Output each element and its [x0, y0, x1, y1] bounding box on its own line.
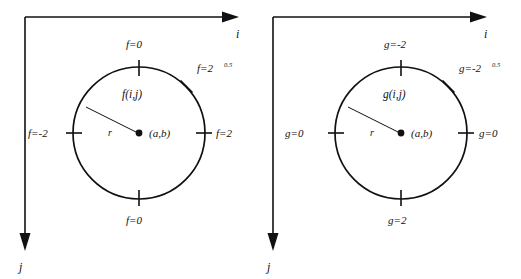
- tick-label-top: g=-2: [384, 38, 407, 50]
- tick-label-diagonal: g=-2 0.5: [459, 61, 501, 74]
- function-label: g(i,j): [383, 88, 406, 101]
- figure-canvas: i j r (a,b) f(i,j) f=0: [0, 0, 521, 279]
- tick-label-left: f=-2: [28, 127, 48, 139]
- center-point-marker: [136, 130, 143, 137]
- panel-left-drawing: i j r (a,b) f(i,j) f=0: [0, 0, 261, 279]
- panel-left: i j r (a,b) f(i,j) f=0: [0, 0, 261, 279]
- function-label: f(i,j): [122, 88, 142, 101]
- axis-i-label: i: [236, 27, 239, 41]
- axis-i-label: i: [484, 27, 487, 41]
- tick-label-left: g=0: [285, 127, 304, 139]
- axis-i: [25, 12, 239, 23]
- tick-label-top: f=0: [126, 38, 142, 50]
- radius-label: r: [108, 127, 112, 138]
- tick-diagonal: [443, 81, 455, 93]
- center-point-label: (a,b): [411, 127, 432, 140]
- tick-diagonal: [181, 81, 193, 93]
- tick-label-right: f=2: [216, 127, 232, 139]
- tick-label-bottom: f=0: [126, 214, 142, 226]
- axis-j: [268, 17, 279, 251]
- axis-i: [273, 12, 487, 23]
- center-point-marker: [398, 130, 405, 137]
- tick-label-diagonal-superscript: 0.5: [224, 61, 233, 68]
- axis-j-label: j: [17, 260, 23, 274]
- tick-label-right: g=0: [479, 127, 498, 139]
- tick-label-diagonal: f=2 0.5: [197, 61, 233, 74]
- center-point-label: (a,b): [149, 127, 170, 140]
- radius-label: r: [370, 127, 374, 138]
- panel-right-drawing: i j r (a,b) g(i,j) g=-2: [260, 0, 521, 279]
- tick-label-diagonal-base: f=2: [197, 62, 213, 74]
- panel-right: i j r (a,b) g(i,j) g=-2: [260, 0, 521, 279]
- tick-label-diagonal-base: g=-2: [459, 62, 482, 74]
- tick-label-bottom: g=2: [388, 214, 407, 226]
- tick-label-diagonal-superscript: 0.5: [492, 61, 501, 68]
- axis-j-label: j: [265, 260, 271, 274]
